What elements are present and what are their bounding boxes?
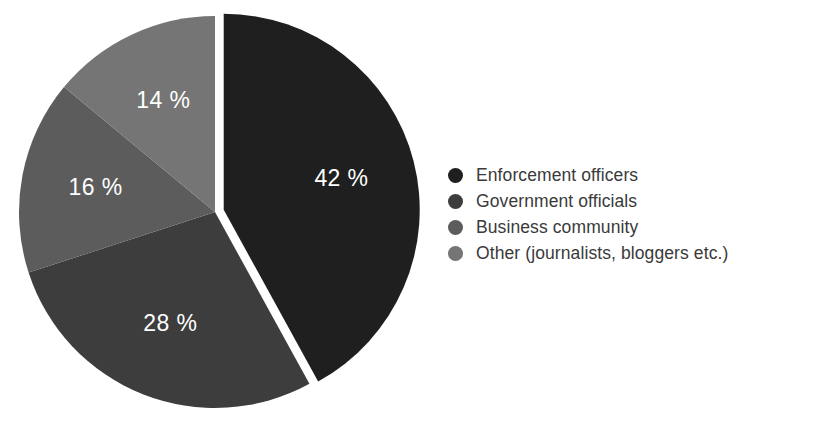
legend-swatch-icon: [448, 168, 463, 183]
legend-swatch-icon: [448, 194, 463, 209]
legend-item-label: Business community: [476, 217, 638, 238]
pie-slice-label: 16 %: [69, 174, 123, 200]
legend-item[interactable]: Enforcement officers: [448, 164, 798, 187]
legend-item-label: Enforcement officers: [476, 165, 638, 186]
legend-item[interactable]: Government officials: [448, 190, 798, 213]
legend-item-label: Other (journalists, bloggers etc.): [476, 243, 728, 264]
legend-swatch-icon: [448, 246, 463, 261]
pie-slice-label: 42 %: [314, 165, 368, 191]
legend-item[interactable]: Other (journalists, bloggers etc.): [448, 242, 798, 265]
legend-item-label: Government officials: [476, 191, 637, 212]
legend-item[interactable]: Business community: [448, 216, 798, 239]
legend-swatch-icon: [448, 220, 463, 235]
chart-legend: Enforcement officersGovernment officials…: [448, 164, 798, 268]
pie-chart-figure: 42 %28 %16 %14 % Enforcement officersGov…: [0, 0, 814, 423]
pie-slice-label: 14 %: [136, 87, 190, 113]
pie-slice-label: 28 %: [143, 310, 197, 336]
